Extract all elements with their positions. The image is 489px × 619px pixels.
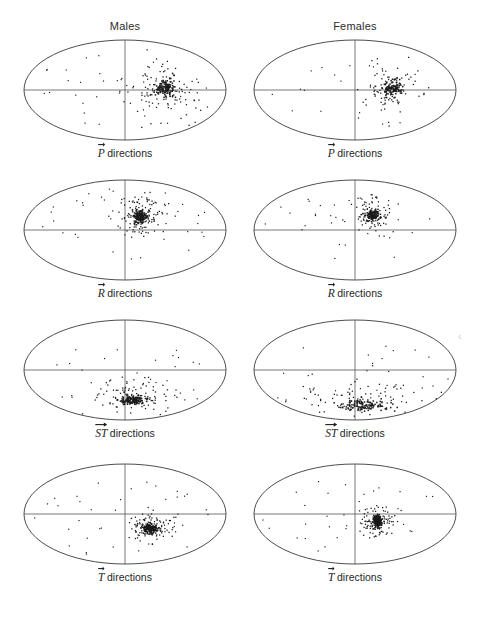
scatter-panel-p-males: Pdirections xyxy=(20,38,230,178)
vector-symbol-text: P xyxy=(98,147,105,159)
vector-arrow-icon xyxy=(95,422,107,427)
panel-label-suffix: directions xyxy=(340,427,385,439)
vector-symbol: T xyxy=(98,570,104,583)
vector-symbol-text: T xyxy=(328,571,334,583)
vector-symbol: ST xyxy=(95,426,107,439)
vector-symbol: T xyxy=(328,570,334,583)
scatter-panel-r-males: Rdirections xyxy=(20,178,230,318)
panel-label-st-males: STdirections xyxy=(20,426,230,439)
scatter-panel-st-males: STdirections xyxy=(20,318,230,458)
panel-label-t-females: Tdirections xyxy=(250,570,460,583)
vector-symbol-text: ST xyxy=(95,427,107,439)
vector-arrow-icon xyxy=(328,566,334,571)
vector-arrow-icon xyxy=(98,142,105,147)
vector-symbol: ST xyxy=(325,426,337,439)
panel-label-suffix: directions xyxy=(337,287,382,299)
vector-symbol-text: P xyxy=(328,147,335,159)
data-point-cloud xyxy=(272,57,430,127)
panel-label-suffix: directions xyxy=(107,147,152,159)
vector-symbol-text: R xyxy=(98,287,105,299)
scatter-panel-t-females: Tdirections xyxy=(250,462,460,602)
vector-symbol: R xyxy=(98,286,105,299)
panel-label-suffix: directions xyxy=(107,571,152,583)
panel-label-r-males: Rdirections xyxy=(20,286,230,299)
data-point-cloud xyxy=(44,49,208,128)
panel-label-t-males: Tdirections xyxy=(20,570,230,583)
vector-symbol-text: R xyxy=(328,287,335,299)
panel-label-suffix: directions xyxy=(337,147,382,159)
data-point-cloud xyxy=(34,482,208,555)
column-header-females: Females xyxy=(250,20,460,32)
scatter-panel-p-females: Pdirections xyxy=(250,38,460,178)
column-header-males: Males xyxy=(20,20,230,32)
figure-canvas: MalesFemalesPdirectionsPdirectionsRdirec… xyxy=(0,0,489,619)
vector-symbol: P xyxy=(328,146,335,159)
panel-label-suffix: directions xyxy=(107,287,152,299)
panel-label-r-females: Rdirections xyxy=(250,286,460,299)
vector-arrow-icon xyxy=(325,422,337,427)
vector-arrow-icon xyxy=(98,566,104,571)
data-point-cloud xyxy=(42,189,205,260)
panel-label-suffix: directions xyxy=(337,571,382,583)
scatter-panel-st-females: STdirections xyxy=(250,318,460,458)
vector-symbol: R xyxy=(328,286,335,299)
panel-label-suffix: directions xyxy=(110,427,155,439)
scatter-panel-t-males: Tdirections xyxy=(20,462,230,602)
vector-arrow-icon xyxy=(98,282,105,287)
panel-label-p-males: Pdirections xyxy=(20,146,230,159)
vector-symbol-text: T xyxy=(98,571,104,583)
vector-arrow-icon xyxy=(328,142,335,147)
panel-label-st-females: STdirections xyxy=(250,426,460,439)
vector-symbol: P xyxy=(98,146,105,159)
scan-artifact-mark: ‹ xyxy=(458,330,462,342)
data-point-cloud xyxy=(56,349,200,415)
panel-label-p-females: Pdirections xyxy=(250,146,460,159)
data-point-cloud xyxy=(265,194,431,259)
vector-arrow-icon xyxy=(328,282,335,287)
vector-symbol-text: ST xyxy=(325,427,337,439)
data-point-cloud xyxy=(262,481,433,551)
scatter-panel-r-females: Rdirections xyxy=(250,178,460,318)
data-point-cloud xyxy=(277,346,448,417)
